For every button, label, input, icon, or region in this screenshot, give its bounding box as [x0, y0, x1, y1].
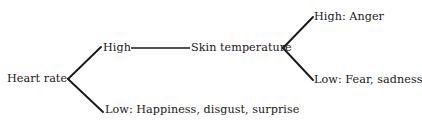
node-label-skin-temperature-high: High: Anger	[314, 11, 384, 22]
edge-heartrate-to-low	[68, 79, 103, 112]
edge-heartrate-to-high	[68, 47, 101, 79]
node-label-heart-rate-low: Low: Happiness, disgust, surprise	[105, 104, 299, 115]
decision-tree-diagram: Heart rate High Skin temperature Low: Ha…	[0, 0, 422, 123]
node-label-skin-temperature: Skin temperature	[191, 42, 292, 53]
node-label-heart-rate: Heart rate	[7, 73, 67, 84]
node-label-skin-temperature-low: Low: Fear, sadness	[314, 74, 422, 85]
node-label-heart-rate-high: High	[103, 42, 131, 53]
